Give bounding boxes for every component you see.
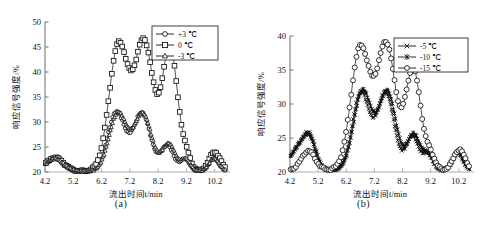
data-marker: [375, 66, 380, 71]
data-marker: [392, 78, 397, 83]
data-marker: [176, 95, 181, 100]
legend-label: -3 ℃: [178, 52, 195, 61]
data-marker: [151, 80, 156, 85]
data-marker: [366, 63, 371, 68]
data-marker: [352, 65, 357, 70]
data-marker: [387, 47, 392, 52]
data-marker: [111, 59, 116, 64]
data-marker: [162, 64, 167, 69]
data-marker: [148, 60, 153, 65]
y-tick-group: 20253035404550: [33, 17, 49, 177]
y-tick-label: 25: [33, 142, 42, 152]
x-tick-label: 7.2: [125, 176, 136, 186]
x-tick-label: 7.2: [369, 176, 380, 186]
legend-marker-icon: [405, 66, 410, 71]
data-marker: [157, 90, 162, 95]
data-marker: [97, 153, 102, 158]
y-tick-label: 40: [33, 67, 42, 77]
legend-label: -5 ℃: [420, 42, 437, 51]
x-tick-label: 4.2: [40, 176, 51, 186]
data-marker: [340, 148, 345, 153]
data-marker: [132, 63, 137, 68]
data-marker: [402, 94, 407, 99]
legend-marker-icon: [163, 32, 168, 37]
data-marker: [394, 90, 399, 95]
y-tick-label: 50: [33, 17, 42, 27]
data-marker: [401, 101, 406, 106]
data-marker: [110, 71, 115, 76]
data-marker: [364, 58, 369, 63]
legend-label: -15 ℃: [420, 64, 441, 73]
data-marker: [104, 113, 109, 118]
data-marker: [134, 57, 139, 62]
data-marker: [378, 50, 383, 55]
x-tick-label: 6.2: [96, 176, 107, 186]
y-axis-title: 响应信号强度/%: [11, 65, 21, 128]
data-marker: [385, 42, 390, 47]
x-tick-label: 5.2: [68, 176, 79, 186]
chart-a-svg: 202530354045504.25.26.27.28.29.210.2流出时间…: [0, 0, 242, 210]
data-marker: [418, 103, 423, 108]
y-tick-label: 30: [33, 117, 42, 127]
legend-label: -10 ℃: [420, 53, 441, 62]
data-marker: [179, 122, 184, 127]
x-tick-label: 10.2: [207, 176, 222, 186]
data-marker: [99, 146, 104, 151]
data-marker: [338, 155, 343, 160]
data-marker: [150, 71, 155, 76]
data-marker: [396, 99, 401, 104]
data-marker: [397, 132, 401, 137]
data-marker: [404, 87, 409, 92]
data-marker: [421, 126, 426, 131]
chart-panel-a: 202530354045504.25.26.27.28.29.210.2流出时间…: [0, 0, 242, 240]
data-marker: [349, 92, 354, 97]
data-marker: [101, 136, 106, 141]
x-tick-label: 9.2: [181, 176, 192, 186]
data-marker: [186, 150, 191, 155]
y-tick-label: 40: [278, 31, 287, 41]
x-tick-label: 10.2: [451, 176, 466, 186]
data-marker: [136, 49, 141, 54]
caption-a: (a): [0, 198, 242, 209]
x-tick-label: 8.2: [153, 176, 164, 186]
chart-b-svg: 20253035404.25.26.27.28.29.210.2流出时间t/mi…: [242, 0, 485, 210]
x-tick-label: 4.2: [285, 176, 296, 186]
y-tick-label: 30: [278, 99, 287, 109]
data-marker: [428, 147, 433, 152]
data-marker: [354, 54, 359, 59]
data-marker: [172, 63, 177, 68]
data-marker: [416, 90, 421, 95]
data-marker: [420, 117, 425, 122]
data-marker: [120, 44, 125, 49]
data-marker: [108, 85, 113, 90]
y-tick-label: 35: [278, 65, 287, 75]
chart-panel-b: 20253035404.25.26.27.28.29.210.2流出时间t/mi…: [242, 0, 485, 240]
y-tick-label: 25: [278, 133, 287, 143]
data-marker: [184, 145, 189, 150]
figure-container: 202530354045504.25.26.27.28.29.210.2流出时间…: [0, 0, 485, 240]
data-marker: [103, 125, 108, 130]
data-marker: [351, 78, 356, 83]
legend-label: 0 ℃: [178, 41, 193, 50]
data-marker: [174, 79, 179, 84]
data-marker: [113, 49, 118, 54]
data-marker: [361, 46, 366, 51]
data-marker: [177, 110, 182, 115]
legend-label: +3 ℃: [178, 30, 197, 39]
data-marker: [144, 43, 149, 48]
x-tick-label: 6.2: [341, 176, 352, 186]
y-tick-label: 35: [33, 92, 42, 102]
series-+3: [44, 109, 227, 173]
data-marker: [344, 129, 349, 134]
data-marker: [406, 78, 411, 83]
data-marker: [466, 164, 471, 169]
y-tick-label: 45: [33, 42, 42, 52]
caption-b: (b): [242, 198, 485, 209]
data-marker: [389, 56, 394, 61]
legend: +3 ℃0 ℃-3 ℃: [152, 26, 218, 61]
data-marker: [393, 111, 397, 116]
data-marker: [363, 51, 368, 56]
legend-marker-icon: [162, 42, 167, 47]
legend: -5 ℃-10 ℃-15 ℃: [394, 38, 468, 73]
data-marker: [423, 134, 428, 139]
